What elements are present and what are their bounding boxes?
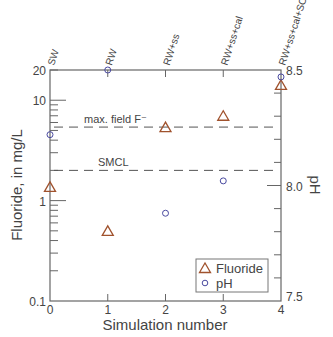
fluoride-point: [218, 111, 229, 121]
x-tick-label: 1: [104, 303, 111, 317]
x-axis-label: Simulation number: [102, 316, 227, 333]
y-tick-label: 0.1: [29, 295, 46, 309]
x-top-label: SW: [45, 47, 61, 66]
x-tick-label: 4: [278, 303, 285, 317]
y2-axis-label: pH: [307, 175, 324, 194]
x-top-label: RW+ss: [161, 32, 181, 66]
y-tick-label: 10: [33, 94, 47, 108]
reference-lines: max. field F⁻SMCL: [54, 113, 275, 170]
legend: FluoridepH: [196, 259, 268, 292]
y2-tick-label: 7.5: [286, 290, 303, 304]
x-tick-label: 2: [162, 303, 169, 317]
y2-tick-label: 8.5: [286, 64, 303, 78]
legend-label: pH: [216, 276, 233, 291]
fluoride-point: [102, 226, 113, 236]
data-points: [45, 67, 287, 235]
ph-point: [163, 210, 169, 216]
reference-line-label: SMCL: [98, 156, 129, 168]
x-top-label: RW: [103, 47, 119, 67]
x-top-label: RW+ss+cal: [219, 15, 245, 67]
fluoride-ph-chart: 0SW1RW2RW+ss3RW+ss+cal4RW+ss+cal+SC20101…: [0, 0, 333, 337]
x-tick-label: 3: [220, 303, 227, 317]
ph-point: [220, 178, 226, 184]
x-top-label: RW+ss+cal+SC: [276, 0, 308, 67]
y-tick-label: 1: [39, 195, 46, 209]
y-axis-label: Fluoride, in mg/L: [8, 129, 25, 241]
legend-label: Fluoride: [216, 261, 263, 276]
reference-line-label: max. field F⁻: [84, 113, 147, 125]
y2-tick-label: 8.0: [286, 180, 303, 194]
y-tick-label: 20: [33, 64, 47, 78]
x-tick-label: 0: [47, 303, 54, 317]
